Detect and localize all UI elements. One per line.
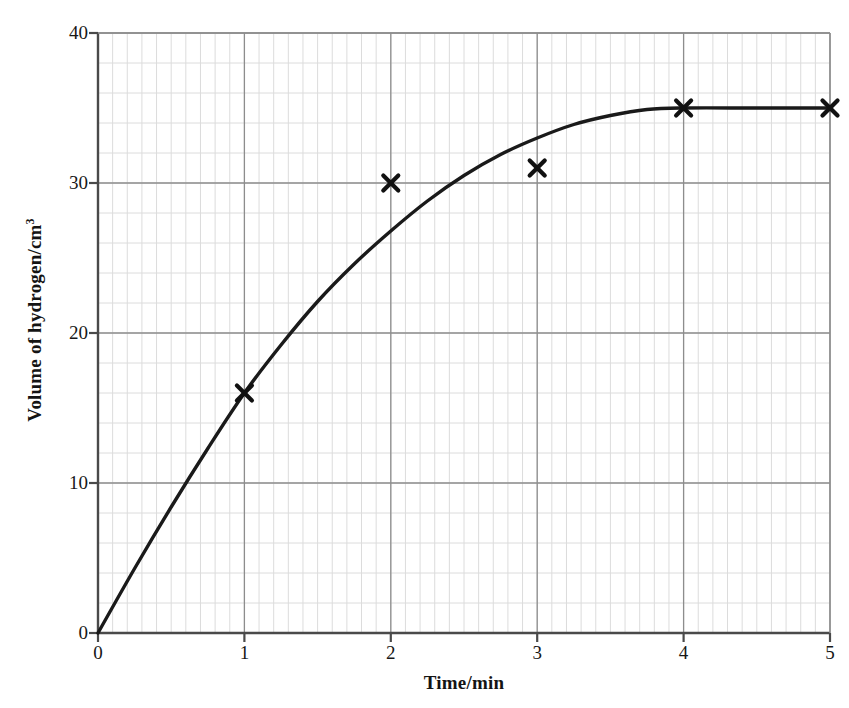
chart-figure: Volume of hydrogen/cm3 Time/min 01020304… xyxy=(0,0,849,708)
plot-area xyxy=(0,0,849,708)
